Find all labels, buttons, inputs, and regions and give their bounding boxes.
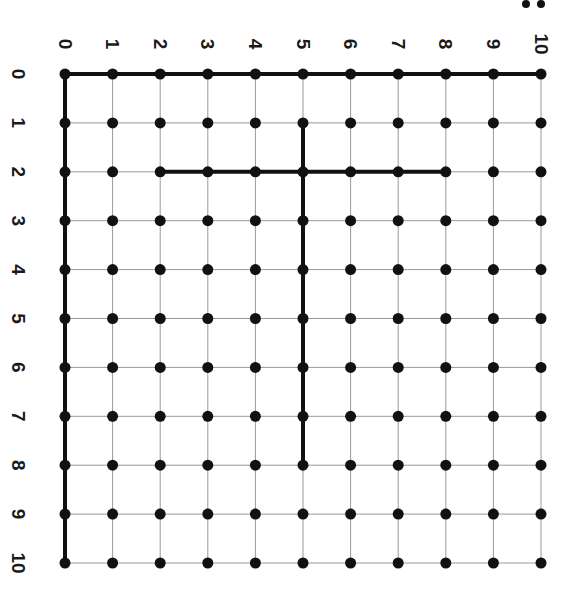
lattice-point (298, 411, 309, 422)
lattice-point (250, 362, 261, 373)
lattice-point (60, 509, 71, 520)
lattice-point (155, 411, 166, 422)
lattice-point (202, 166, 213, 177)
lattice-point (60, 313, 71, 324)
lattice-point (440, 362, 451, 373)
row-labels: 012345678910 (8, 69, 29, 574)
lattice-point (155, 460, 166, 471)
lattice-point (155, 362, 166, 373)
lattice-point (202, 460, 213, 471)
lattice-point (155, 313, 166, 324)
lattice-point (250, 411, 261, 422)
lattice-point (393, 166, 404, 177)
lattice-point (440, 558, 451, 569)
lattice-point (440, 264, 451, 275)
lattice-point (155, 215, 166, 226)
lattice-point (250, 117, 261, 128)
row-label: 0 (8, 69, 29, 80)
lattice-point (440, 69, 451, 80)
lattice-point (60, 558, 71, 569)
lattice-point (393, 460, 404, 471)
lattice-point (107, 411, 118, 422)
row-label: 5 (8, 313, 29, 324)
row-label: 9 (8, 509, 29, 520)
lattice-point (298, 313, 309, 324)
lattice-point (107, 362, 118, 373)
lattice-point (440, 313, 451, 324)
lattice-point (250, 264, 261, 275)
lattice-point (250, 558, 261, 569)
lattice-point (440, 509, 451, 520)
lattice-point (440, 411, 451, 422)
lattice-point (536, 460, 547, 471)
lattice-point (60, 362, 71, 373)
lattice-point (488, 509, 499, 520)
lattice-point (440, 460, 451, 471)
lattice-point (488, 313, 499, 324)
row-label: 6 (8, 362, 29, 373)
lattice-point (60, 215, 71, 226)
fragment-dot (537, 0, 545, 8)
lattice-point (107, 460, 118, 471)
lattice-point (107, 313, 118, 324)
lattice-point (345, 166, 356, 177)
lattice-point (298, 117, 309, 128)
fragment-dot (522, 0, 530, 8)
row-label: 10 (8, 552, 29, 573)
column-label: 5 (293, 39, 314, 50)
lattice-point (155, 69, 166, 80)
lattice-point (345, 509, 356, 520)
column-labels: 012345678910 (55, 33, 552, 54)
row-label: 8 (8, 460, 29, 471)
lattice-point (107, 264, 118, 275)
lattice-point (488, 362, 499, 373)
lattice-point (393, 215, 404, 226)
lattice-point (440, 215, 451, 226)
lattice-point (393, 558, 404, 569)
row-label: 4 (8, 264, 29, 275)
column-label: 0 (55, 39, 76, 50)
lattice-point (488, 264, 499, 275)
lattice-point (60, 69, 71, 80)
lattice-point (298, 362, 309, 373)
lattice-point (536, 264, 547, 275)
lattice-point (107, 69, 118, 80)
lattice-point (107, 558, 118, 569)
lattice-point (202, 215, 213, 226)
lattice-point (488, 166, 499, 177)
lattice-point (60, 117, 71, 128)
lattice-point (202, 313, 213, 324)
column-label: 1 (102, 39, 123, 50)
lattice-point (345, 460, 356, 471)
column-label: 10 (531, 33, 552, 54)
lattice-point (345, 69, 356, 80)
lattice-point (155, 558, 166, 569)
lattice-point (488, 215, 499, 226)
lattice-point (488, 411, 499, 422)
lattice-point (202, 69, 213, 80)
lattice-point (202, 411, 213, 422)
lattice-point (250, 509, 261, 520)
lattice-point (393, 313, 404, 324)
lattice-point (393, 264, 404, 275)
lattice-point (536, 558, 547, 569)
lattice-point (345, 313, 356, 324)
lattice-point (298, 558, 309, 569)
lattice-point (298, 215, 309, 226)
lattice-point (345, 264, 356, 275)
lattice-point (536, 313, 547, 324)
lattice-point (298, 509, 309, 520)
lattice-point (488, 117, 499, 128)
lattice-point (536, 69, 547, 80)
lattice-point (250, 166, 261, 177)
lattice-point (298, 460, 309, 471)
column-label: 7 (388, 39, 409, 50)
lattice-point (202, 362, 213, 373)
row-label: 2 (8, 167, 29, 178)
lattice-point (250, 215, 261, 226)
lattice-point (60, 264, 71, 275)
row-label: 1 (8, 118, 29, 129)
lattice-point (345, 362, 356, 373)
lattice-diagram: 012345678910 012345678910 (0, 0, 571, 613)
column-label: 4 (245, 39, 266, 50)
